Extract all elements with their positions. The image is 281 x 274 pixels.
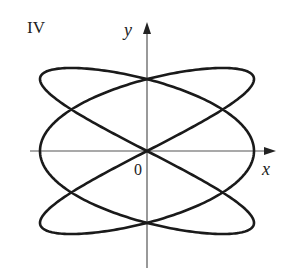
y-axis-label: y bbox=[124, 21, 132, 39]
x-axis-label: x bbox=[262, 160, 270, 178]
origin-label: 0 bbox=[134, 162, 142, 178]
y-axis-arrow-icon bbox=[143, 22, 151, 34]
plot-area bbox=[0, 0, 281, 274]
panel-label: IV bbox=[27, 19, 45, 36]
x-axis-arrow-icon bbox=[264, 147, 276, 155]
lissajous-figure: IV y x 0 bbox=[0, 0, 281, 274]
